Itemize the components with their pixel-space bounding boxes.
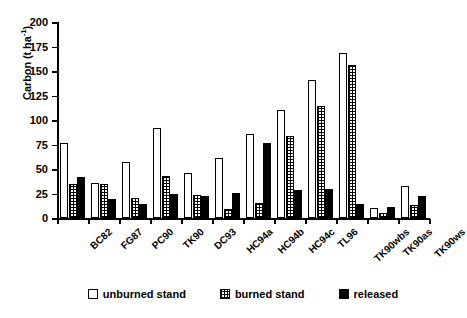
- bar-unburned: [91, 183, 99, 218]
- bar-burned: [162, 176, 170, 218]
- bar-burned: [255, 203, 263, 218]
- x-tick-mark: [212, 219, 214, 224]
- bar-unburned: [401, 186, 409, 218]
- bar-group: [274, 22, 305, 218]
- bar-unburned: [246, 134, 254, 218]
- x-axis-label: TL96: [335, 226, 360, 250]
- bar-unburned: [153, 128, 161, 218]
- legend-label: released: [354, 288, 399, 300]
- y-tick-label: 50: [36, 163, 48, 175]
- bar-released: [325, 189, 333, 218]
- bar-released: [263, 143, 271, 218]
- bar-group: [243, 22, 274, 218]
- y-tick-label: 75: [36, 139, 48, 151]
- x-tick-mark: [181, 219, 183, 224]
- x-tick-mark: [336, 219, 338, 224]
- legend-item: burned stand: [220, 288, 305, 300]
- bar-released: [108, 199, 116, 218]
- x-axis-label: HC94a: [245, 226, 275, 255]
- bar-released: [356, 204, 364, 218]
- bar-group: [181, 22, 212, 218]
- y-tick-label: 25: [36, 188, 48, 200]
- bar-group: [150, 22, 181, 218]
- x-axis-label: BC82: [88, 226, 114, 251]
- y-tick-label: 0: [42, 212, 48, 224]
- bar-released: [170, 194, 178, 218]
- bar-unburned: [215, 158, 223, 218]
- y-tick-label: 125: [30, 90, 48, 102]
- legend-item: unburned stand: [88, 288, 186, 300]
- bar-burned: [193, 195, 201, 218]
- bar-burned: [131, 198, 139, 218]
- bar-released: [232, 193, 240, 218]
- x-tick-mark: [57, 219, 59, 224]
- bar-released: [387, 207, 395, 218]
- bar-group: [57, 22, 88, 218]
- x-tick-mark: [398, 219, 400, 224]
- bar-group: [305, 22, 336, 218]
- bar-group: [398, 22, 429, 218]
- legend-swatch-released: [339, 289, 349, 299]
- y-tick-label: 100: [30, 114, 48, 126]
- bar-group: [212, 22, 243, 218]
- bar-burned: [379, 213, 387, 218]
- bar-unburned: [122, 162, 130, 218]
- bar-burned: [100, 184, 108, 218]
- bar-released: [418, 196, 426, 218]
- y-tick-label: 200: [30, 16, 48, 28]
- bar-burned: [286, 136, 294, 218]
- bar-released: [201, 196, 209, 218]
- x-axis-label: DC93: [212, 226, 238, 251]
- x-tick-mark: [119, 219, 121, 224]
- legend-swatch-unburned: [88, 289, 98, 299]
- x-tick-mark: [367, 219, 369, 224]
- bar-unburned: [277, 110, 285, 218]
- x-axis-label: HC94b: [276, 226, 307, 256]
- bar-released: [77, 177, 85, 218]
- chart-legend: unburned standburned standreleased: [57, 283, 429, 305]
- bar-burned: [410, 205, 418, 218]
- bar-burned: [69, 184, 77, 218]
- x-axis-label: TK90: [181, 226, 206, 251]
- y-tick-label: 150: [30, 65, 48, 77]
- x-axis-label: FG87: [119, 226, 145, 251]
- legend-item: released: [339, 288, 399, 300]
- x-axis-label: PC90: [150, 226, 176, 251]
- bar-unburned: [370, 208, 378, 218]
- bar-group: [119, 22, 150, 218]
- y-axis-title-superscript: -1: [19, 29, 28, 36]
- x-axis-label: HC94c: [307, 226, 337, 255]
- legend-swatch-burned: [220, 289, 230, 299]
- bar-burned: [224, 209, 232, 218]
- legend-label: unburned stand: [103, 288, 186, 300]
- bar-unburned: [339, 53, 347, 218]
- legend-label: burned stand: [235, 288, 305, 300]
- bar-released: [294, 190, 302, 218]
- bar-group: [88, 22, 119, 218]
- x-tick-mark: [274, 219, 276, 224]
- x-tick-mark: [88, 219, 90, 224]
- bar-released: [139, 204, 147, 218]
- x-tick-mark: [305, 219, 307, 224]
- bar-unburned: [308, 80, 316, 218]
- y-tick-label: 175: [30, 41, 48, 53]
- bar-burned: [317, 106, 325, 218]
- x-axis-label: TK90ws: [432, 226, 467, 260]
- bar-group: [336, 22, 367, 218]
- x-tick-mark: [243, 219, 245, 224]
- x-tick-mark: [429, 219, 431, 224]
- plot-area: 0255075100125150175200: [57, 22, 429, 218]
- bar-group: [367, 22, 398, 218]
- bar-unburned: [184, 173, 192, 218]
- bar-burned: [348, 65, 356, 218]
- bar-unburned: [60, 143, 68, 218]
- x-tick-mark: [150, 219, 152, 224]
